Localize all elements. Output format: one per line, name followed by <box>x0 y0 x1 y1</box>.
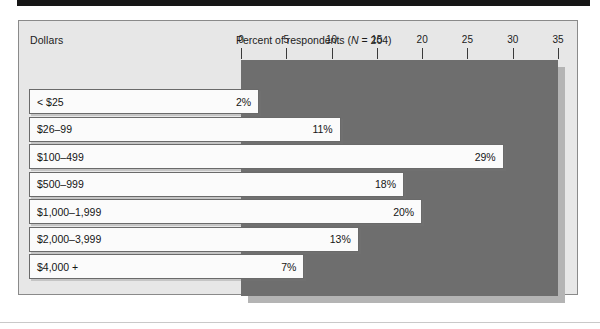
bar-value-label: 29% <box>475 151 496 163</box>
bar-category-label: $2,000–3,999 <box>37 233 101 245</box>
bar-row: $1,000–1,99920% <box>29 199 422 224</box>
bar-category-label: $1,000–1,999 <box>37 206 101 218</box>
bar-value-label: 2% <box>236 96 251 108</box>
bar-category-label: $100–499 <box>37 151 84 163</box>
bar-value-label: 20% <box>393 206 414 218</box>
bar-row: < $252% <box>29 89 259 114</box>
bar-category-label: $500–999 <box>37 178 84 190</box>
bar-value-label: 18% <box>375 178 396 190</box>
bars-layer: < $252%$26–9911%$100–49929%$500–99918%$1… <box>0 0 600 329</box>
bar-value-label: 13% <box>330 233 351 245</box>
bar-row: $100–49929% <box>29 144 504 169</box>
bar-row: $4,000 +7% <box>29 254 304 279</box>
bar-value-label: 7% <box>281 261 296 273</box>
bar-category-label: $4,000 + <box>37 261 78 273</box>
bar-category-label: < $25 <box>37 96 64 108</box>
bar-row: $2,000–3,99913% <box>29 227 359 252</box>
bar-value-label: 11% <box>312 123 332 135</box>
bar-row: $500–99918% <box>29 172 404 197</box>
bar-category-label: $26–99 <box>37 123 72 135</box>
bar-row: $26–9911% <box>29 117 341 142</box>
